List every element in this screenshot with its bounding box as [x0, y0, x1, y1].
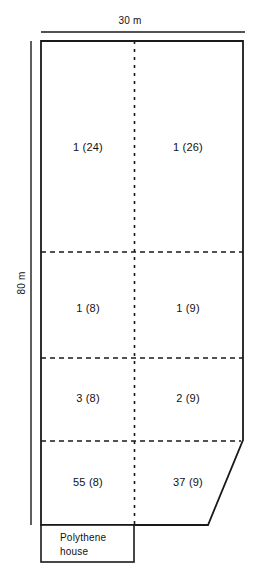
polythene-house-label: Polythene house: [60, 531, 106, 559]
plot-label-r2c1: 1 (8): [76, 302, 100, 315]
plot-label-r4c1: 55 (8): [73, 476, 103, 489]
plot-label-r4c2: 37 (9): [173, 476, 203, 489]
diagram-canvas: [0, 0, 259, 583]
plot-label-r3c1: 3 (8): [76, 392, 100, 405]
scale-label-height: 80 m: [16, 271, 28, 294]
plot-label-r2c2: 1 (9): [176, 302, 200, 315]
scale-label-width: 30 m: [118, 15, 141, 27]
plot-label-r1c2: 1 (26): [173, 141, 203, 154]
field-plot-diagram: 30 m 80 m 1 (24) 1 (26) 1 (8) 1 (9) 3 (8…: [0, 0, 259, 583]
plot-label-r3c2: 2 (9): [176, 392, 200, 405]
field-outline: [41, 41, 243, 525]
plot-label-r1c1: 1 (24): [73, 141, 103, 154]
